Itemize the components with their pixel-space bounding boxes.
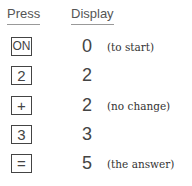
digit-2-key: 2 <box>11 66 32 85</box>
display-value: 2 <box>82 95 92 115</box>
step-row: 3 3 <box>0 125 192 147</box>
step-note: (the answer) <box>107 157 174 171</box>
display-value: 0 <box>82 36 92 56</box>
display-column-header: Display <box>71 6 114 25</box>
digit-3-key: 3 <box>11 125 32 144</box>
on-key: ON <box>11 37 32 56</box>
display-value: 5 <box>82 153 92 173</box>
step-row: ON 0 (to start) <box>0 37 192 59</box>
display-value: 3 <box>82 124 92 144</box>
equals-key: = <box>11 154 32 173</box>
plus-key: + <box>11 96 32 115</box>
step-row: = 5 (the answer) <box>0 154 192 176</box>
press-column-header: Press <box>7 6 40 25</box>
display-value: 2 <box>82 65 92 85</box>
step-row: 2 2 <box>0 66 192 88</box>
step-row: + 2 (no change) <box>0 96 192 118</box>
step-note: (to start) <box>107 40 154 54</box>
step-note: (no change) <box>107 99 170 113</box>
